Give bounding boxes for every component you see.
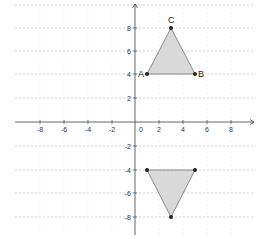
tick-marks: [40, 28, 231, 217]
x-tick-label: 4: [181, 126, 185, 133]
reflected-triangle: [147, 170, 195, 217]
y-tick-label: 6: [127, 48, 131, 55]
y-tick-label: -6: [125, 190, 131, 197]
label-b: B: [198, 69, 204, 79]
point-b-prime: [193, 168, 197, 172]
y-tick-label: 4: [127, 71, 131, 78]
grid-vertical: [40, 4, 231, 235]
y-tick-label: 8: [127, 25, 131, 32]
point-a-prime: [145, 168, 149, 172]
label-a: A: [138, 69, 144, 79]
x-tick-label: -6: [61, 126, 67, 133]
x-tick-label: 8: [229, 126, 233, 133]
label-c: C: [168, 15, 175, 25]
y-tick-labels: 8 6 4 2 -2 -4 -6 -8: [125, 25, 131, 221]
x-tick-label: 6: [205, 126, 209, 133]
y-tick-label: 2: [127, 95, 131, 102]
origin-label: 0: [139, 126, 143, 133]
axes: [15, 4, 254, 235]
y-tick-label: -2: [125, 143, 131, 150]
point-c: [169, 26, 173, 30]
y-tick-label: -4: [125, 167, 131, 174]
point-b: [193, 72, 197, 76]
coordinate-plane: -8 -6 -4 -2 2 4 6 8 0 8 6 4 2 -2 -4 -6 -…: [0, 0, 265, 239]
x-tick-label: -2: [109, 126, 115, 133]
x-tick-label: -8: [37, 126, 43, 133]
x-tick-label: -4: [85, 126, 91, 133]
y-tick-label: -8: [125, 214, 131, 221]
point-c-prime: [169, 215, 173, 219]
point-a: [145, 72, 149, 76]
x-tick-label: 2: [157, 126, 161, 133]
